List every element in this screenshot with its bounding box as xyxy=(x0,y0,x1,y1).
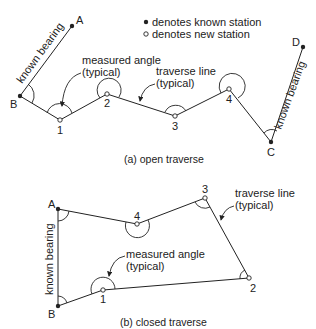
station-C-marker xyxy=(269,140,273,144)
traverse-line-label-closed: traverse line xyxy=(235,187,295,199)
measured-angle-label-closed: measured angle xyxy=(126,248,205,260)
angle-arc-B-closed xyxy=(58,296,67,303)
angle-arc-A xyxy=(58,211,69,221)
legend-known: denotes known station xyxy=(152,16,261,28)
measured-angle-label: measured angle xyxy=(82,54,161,66)
station-B-closed-label: B xyxy=(48,308,55,320)
station-4-closed-label: 4 xyxy=(134,210,140,222)
angle-arc-4 xyxy=(219,73,245,98)
new-station-icon xyxy=(144,32,148,36)
station-3-marker xyxy=(173,114,177,118)
measured-angle-typical-closed: (typical) xyxy=(126,260,165,272)
station-D-marker xyxy=(301,45,305,49)
station-B-label: B xyxy=(10,98,17,110)
station-A-marker xyxy=(70,24,74,28)
closed-traverse-caption: (b) closed traverse xyxy=(120,316,207,328)
traverse-line-arrow-closed xyxy=(221,206,234,220)
station-1-closed-label: 1 xyxy=(100,293,106,305)
station-B-closed-marker xyxy=(56,304,60,308)
traverse-line-typical-closed: (typical) xyxy=(235,199,274,211)
station-4-label: 4 xyxy=(226,93,232,105)
measured-angle-typical: (typical) xyxy=(82,66,121,78)
station-3-closed-marker xyxy=(203,196,207,200)
angle-arc-3 xyxy=(165,105,186,112)
closed-traverse: A B 1 2 3 4 known bearing measured angle… xyxy=(43,183,295,328)
known-bearing-label-closed: known bearing xyxy=(43,223,55,295)
station-2-closed-marker xyxy=(247,276,251,280)
measured-angle-arrow-closed xyxy=(109,256,125,276)
angle-arc-1 xyxy=(47,104,72,113)
traverse-line-label: traverse line xyxy=(156,65,216,77)
station-A-label: A xyxy=(76,14,84,26)
station-A-closed-marker xyxy=(56,207,60,211)
station-1-closed-marker xyxy=(101,288,105,292)
station-D-label: D xyxy=(292,36,300,48)
station-C-label: C xyxy=(267,146,275,158)
station-4-marker xyxy=(227,87,231,91)
traverse-line-typical: (typical) xyxy=(156,77,195,89)
station-3-closed-label: 3 xyxy=(202,183,208,195)
station-2-label: 2 xyxy=(104,97,110,109)
known-bearing-label-right: known bearing xyxy=(272,59,308,130)
known-station-icon xyxy=(144,20,148,24)
traverse-line-arrow xyxy=(140,84,155,101)
open-traverse-caption: (a) open traverse xyxy=(124,153,204,165)
station-1-marker xyxy=(58,118,62,122)
station-A-closed-label: A xyxy=(48,198,56,210)
station-2-marker xyxy=(105,92,109,96)
station-2-closed-label: 2 xyxy=(250,282,256,294)
angle-arc-B xyxy=(28,84,34,103)
station-1-label: 1 xyxy=(57,124,63,136)
measured-angle-arrow xyxy=(62,73,81,106)
angle-arc-2-closed xyxy=(240,270,245,279)
known-bearing-label-left: known bearing xyxy=(14,20,66,85)
station-4-closed-marker xyxy=(135,222,139,226)
traverse-diagram: denotes known station denotes new statio… xyxy=(0,0,316,329)
station-3-label: 3 xyxy=(172,120,178,132)
legend: denotes known station denotes new statio… xyxy=(144,16,262,40)
station-B-marker xyxy=(18,94,22,98)
legend-new: denotes new station xyxy=(152,28,250,40)
